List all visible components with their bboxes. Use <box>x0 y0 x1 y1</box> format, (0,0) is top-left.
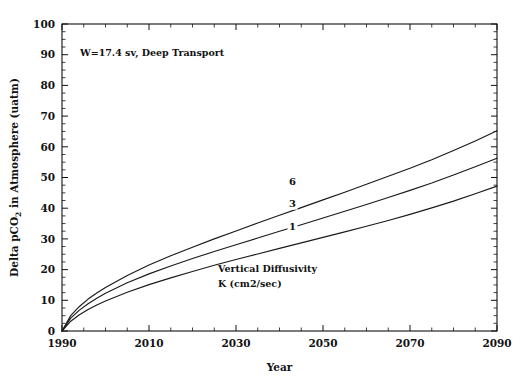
annotation-diffusivity-units: K (cm2/sec) <box>218 278 282 289</box>
x-tick-label: 2030 <box>221 337 250 349</box>
y-tick-label: 60 <box>40 141 55 153</box>
y-tick-label: 100 <box>33 18 55 30</box>
x-tick-label: 2010 <box>134 337 163 349</box>
line-chart-delta-pco2: 1990201020302050207020900102030405060708… <box>0 0 526 387</box>
y-tick-label: 90 <box>40 48 55 60</box>
y-tick-label: 50 <box>40 171 55 183</box>
y-tick-label: 80 <box>40 79 55 91</box>
x-tick-label: 2070 <box>395 337 424 349</box>
y-tick-label: 40 <box>40 202 55 214</box>
curve-label-6: 6 <box>289 176 296 187</box>
y-tick-label: 20 <box>40 263 55 275</box>
y-tick-label: 0 <box>48 325 55 337</box>
y-axis-title: Delta pCO2 in Atmosphere (uatm) <box>8 78 23 277</box>
curve-label-1: 1 <box>289 221 296 232</box>
annotation-diffusivity-title: Vertical Diffusivity <box>217 263 317 274</box>
annotation-transport: W=17.4 sv, Deep Transport <box>79 47 225 59</box>
y-tick-label: 30 <box>40 233 55 245</box>
x-tick-label: 2090 <box>482 337 511 349</box>
x-axis-title: Year <box>266 361 293 373</box>
chart-figure: 1990201020302050207020900102030405060708… <box>0 0 526 387</box>
y-axis-title-main: Delta pCO <box>8 217 20 277</box>
curve-k-1 <box>62 186 497 331</box>
x-tick-label: 1990 <box>47 337 76 349</box>
curve-label-3: 3 <box>289 198 296 209</box>
y-tick-label: 70 <box>40 110 55 122</box>
x-tick-label: 2050 <box>308 337 337 349</box>
y-tick-label: 10 <box>40 294 55 306</box>
curve-k-3 <box>62 158 497 331</box>
y-axis-title-rest: in Atmosphere (uatm) <box>8 78 20 212</box>
